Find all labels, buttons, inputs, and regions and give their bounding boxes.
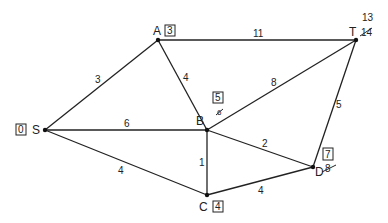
- node-label-S: S: [32, 123, 40, 137]
- edge-S-C: [45, 130, 207, 195]
- weight-S-A: 3: [95, 74, 101, 85]
- node-C: [205, 193, 209, 197]
- weight-B-D: 2: [262, 138, 268, 149]
- distance-T: 13: [362, 12, 374, 23]
- node-S: [43, 128, 47, 132]
- weight-D-T: 5: [336, 99, 342, 110]
- nodes: S 0 A 3 T 13 14 B 5 6 C 4 D 7 8: [16, 12, 374, 214]
- edge-B-D: [207, 130, 313, 167]
- edge-D-T: [313, 40, 356, 167]
- distance-C: 4: [215, 201, 221, 212]
- weight-B-C: 1: [199, 157, 205, 168]
- node-label-T: T: [349, 25, 357, 39]
- weight-C-D: 4: [258, 185, 264, 196]
- edge-B-T: [207, 40, 356, 130]
- node-B: [205, 128, 209, 132]
- weight-S-C: 4: [118, 165, 124, 176]
- node-label-B: B: [196, 114, 204, 128]
- node-label-A: A: [153, 24, 161, 38]
- weight-A-T: 11: [253, 28, 264, 39]
- edge-S-A: [45, 40, 158, 130]
- distance-S: 0: [18, 124, 24, 135]
- weight-B-T: 8: [271, 77, 277, 88]
- distance-D: 7: [325, 149, 331, 160]
- weight-A-B: 4: [183, 72, 189, 83]
- node-label-C: C: [199, 200, 208, 214]
- distance-A: 3: [167, 25, 173, 36]
- distance-B: 5: [215, 92, 221, 103]
- weight-S-B: 6: [124, 118, 130, 129]
- node-A: [156, 38, 160, 42]
- graph-diagram: 3 11 4 6 4 8 1 2 4 5 S 0 A 3 T 13 14 B 5…: [0, 0, 388, 223]
